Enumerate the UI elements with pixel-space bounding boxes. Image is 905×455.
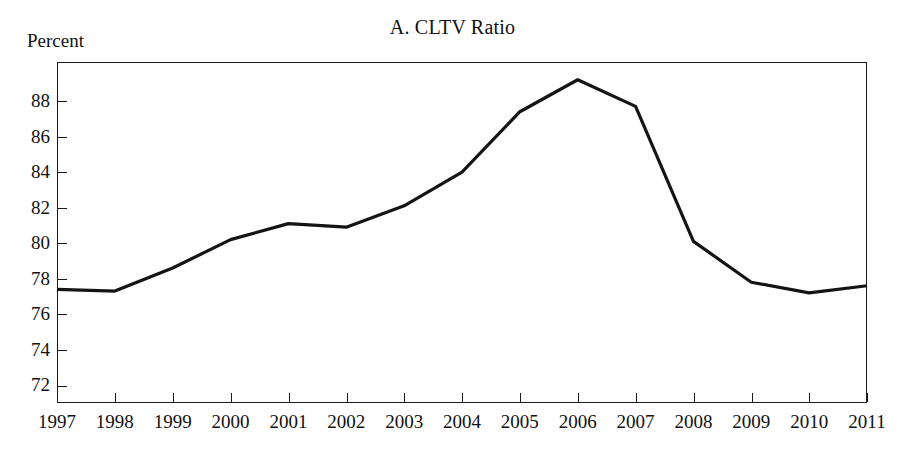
y-tick-label: 74 xyxy=(4,340,50,359)
y-tick-label: 84 xyxy=(4,162,50,181)
y-tick-label: 86 xyxy=(4,127,50,146)
y-tick-label: 78 xyxy=(4,269,50,288)
y-tick-label: 80 xyxy=(4,233,50,252)
x-tick-label: 2011 xyxy=(829,412,905,431)
y-axis-tick-labels: 727476788082848688 xyxy=(0,62,50,403)
chart-figure: A. CLTV Ratio Percent 727476788082848688… xyxy=(0,0,905,455)
chart-title: A. CLTV Ratio xyxy=(0,16,905,39)
data-series-layer xyxy=(57,62,867,403)
y-tick-label: 72 xyxy=(4,375,50,394)
y-tick-label: 82 xyxy=(4,198,50,217)
x-axis-tick-labels: 1997199819992000200120022003200420052006… xyxy=(0,412,905,442)
y-tick-label: 88 xyxy=(4,91,50,110)
y-tick-label: 76 xyxy=(4,304,50,323)
x-tick-mark xyxy=(867,393,868,402)
y-axis-unit-label: Percent xyxy=(27,30,84,52)
series-line-cltv-ratio xyxy=(57,80,867,293)
